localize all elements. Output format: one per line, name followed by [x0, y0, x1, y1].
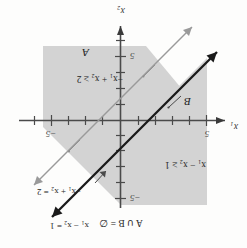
- figure-canvas: A ∪ B = ∅ x₁ x₂ 5 −5 −5 5 x₁ − x₂ = 1 −x…: [0, 0, 247, 248]
- x-axis-label: x₁: [230, 122, 239, 132]
- region-a-set-label: A: [82, 47, 90, 59]
- y-tick-label-top: −5: [130, 193, 141, 203]
- line-a-equation-label: −x₁ + x₂ = 2: [37, 187, 81, 197]
- region-a-inequality-label: −x₁ + x₂ ≥ 2: [76, 74, 123, 84]
- x-tick-label-right: −5: [45, 129, 56, 139]
- y-tick-label-bottom: 5: [130, 51, 135, 61]
- region-a-leader-dot: [143, 76, 145, 78]
- line-a-leader-dot: [68, 151, 70, 153]
- union-annotation: A ∪ B = ∅: [99, 218, 143, 228]
- y-axis-arrowhead: [117, 26, 124, 35]
- region-b-set-label: B: [184, 96, 191, 108]
- x-tick-label-left: 5: [204, 129, 209, 139]
- region-b-inequality-label: x₁ − x₂ ≥ 1: [165, 160, 206, 170]
- region-b-leader-dot: [167, 106, 169, 108]
- x-axis-arrowhead: [216, 117, 225, 124]
- line-b-equation-label: x₁ − x₂ = 1: [50, 221, 89, 231]
- y-axis-label: x₂: [117, 6, 126, 16]
- graph-svg: A ∪ B = ∅ x₁ x₂ 5 −5 −5 5 x₁ − x₂ = 1 −x…: [0, 0, 247, 248]
